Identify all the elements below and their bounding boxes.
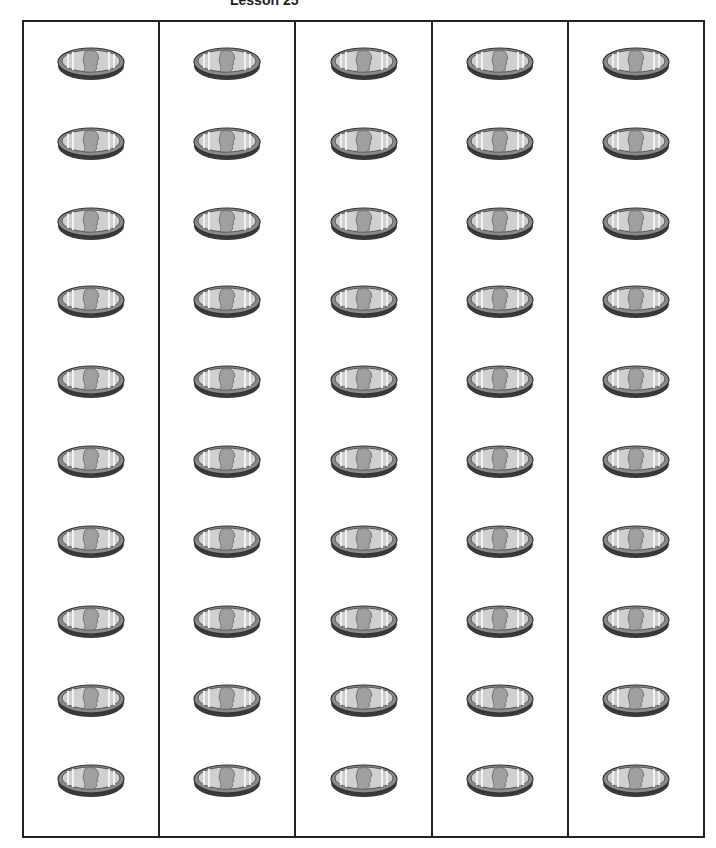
penny-icon xyxy=(465,202,535,242)
penny-icon xyxy=(601,122,671,162)
coin-column xyxy=(24,22,160,836)
penny-icon xyxy=(465,759,535,799)
penny-icon xyxy=(192,600,262,640)
penny-icon xyxy=(329,360,399,400)
penny-icon xyxy=(601,679,671,719)
penny-icon xyxy=(56,759,126,799)
penny-icon xyxy=(192,679,262,719)
penny-icon xyxy=(192,280,262,320)
penny-icon xyxy=(601,759,671,799)
penny-icon xyxy=(329,600,399,640)
penny-icon xyxy=(56,360,126,400)
penny-icon xyxy=(329,679,399,719)
penny-icon xyxy=(329,520,399,560)
penny-icon xyxy=(329,440,399,480)
coin-column xyxy=(160,22,296,836)
penny-icon xyxy=(601,600,671,640)
penny-icon xyxy=(192,520,262,560)
coin-column xyxy=(296,22,432,836)
penny-icon xyxy=(56,122,126,162)
coin-grid xyxy=(22,20,705,838)
penny-icon xyxy=(56,679,126,719)
penny-icon xyxy=(329,202,399,242)
penny-icon xyxy=(56,280,126,320)
penny-icon xyxy=(56,202,126,242)
penny-icon xyxy=(192,440,262,480)
penny-icon xyxy=(192,202,262,242)
penny-icon xyxy=(56,440,126,480)
penny-icon xyxy=(192,759,262,799)
penny-icon xyxy=(329,42,399,82)
penny-icon xyxy=(192,42,262,82)
penny-icon xyxy=(56,42,126,82)
penny-icon xyxy=(465,122,535,162)
penny-icon xyxy=(56,520,126,560)
penny-icon xyxy=(465,440,535,480)
coin-column xyxy=(569,22,703,836)
penny-icon xyxy=(329,280,399,320)
penny-icon xyxy=(601,280,671,320)
penny-icon xyxy=(601,360,671,400)
penny-icon xyxy=(465,600,535,640)
penny-icon xyxy=(465,280,535,320)
coin-column xyxy=(433,22,569,836)
penny-icon xyxy=(601,202,671,242)
penny-icon xyxy=(192,122,262,162)
penny-icon xyxy=(329,122,399,162)
page-header: Lesson 25 xyxy=(230,0,298,8)
penny-icon xyxy=(465,360,535,400)
penny-icon xyxy=(465,679,535,719)
penny-icon xyxy=(192,360,262,400)
penny-icon xyxy=(601,42,671,82)
penny-icon xyxy=(601,520,671,560)
penny-icon xyxy=(601,440,671,480)
penny-icon xyxy=(465,42,535,82)
penny-icon xyxy=(56,600,126,640)
penny-icon xyxy=(329,759,399,799)
penny-icon xyxy=(465,520,535,560)
